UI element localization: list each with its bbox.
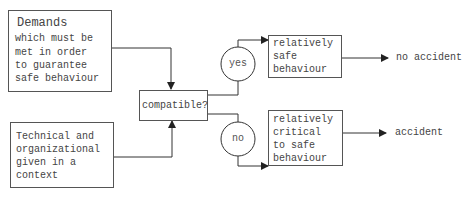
context-line-4: context — [16, 170, 58, 182]
compatible-decision-box: compatible? — [139, 90, 208, 121]
demands-to-compatible-arrow — [111, 48, 171, 89]
compatible-to-yes-line — [207, 81, 238, 95]
compatible-to-no-line — [207, 114, 238, 122]
critical-line-3: to safe — [273, 140, 315, 152]
yes-to-safe-arrow — [238, 40, 268, 47]
context-to-compatible-arrow — [114, 121, 172, 157]
demands-line-3: to guarantee — [15, 60, 87, 72]
critical-line-4: behaviour — [273, 153, 327, 165]
demands-line-1: which must be — [15, 33, 93, 45]
demands-box: Demands which must be met in order to gu… — [8, 10, 112, 92]
context-line-2: organizational — [16, 144, 100, 156]
safe-line-2: safe — [273, 51, 297, 63]
demands-line-4: safe behaviour — [15, 73, 99, 85]
demands-line-2: met in order — [15, 47, 87, 59]
context-box: Technical and organizational given in a … — [10, 122, 114, 188]
no-to-critical-arrow — [238, 156, 268, 166]
context-line-3: given in a — [16, 157, 76, 169]
context-line-1: Technical and — [16, 131, 94, 143]
outcome-accident: accident — [395, 127, 443, 139]
compatible-label: compatible? — [142, 100, 208, 112]
critical-line-2: critical — [273, 127, 321, 139]
critical-behaviour-box: relatively critical to safe behaviour — [268, 110, 343, 166]
safe-line-1: relatively — [273, 38, 333, 50]
critical-line-1: relatively — [273, 114, 333, 126]
demands-title: Demands — [17, 16, 67, 30]
safe-line-3: behaviour — [273, 64, 327, 76]
outcome-no-accident: no accident — [396, 52, 462, 64]
no-label: no — [222, 133, 254, 145]
safe-behaviour-box: relatively safe behaviour — [268, 35, 342, 78]
yes-label: yes — [222, 58, 254, 70]
